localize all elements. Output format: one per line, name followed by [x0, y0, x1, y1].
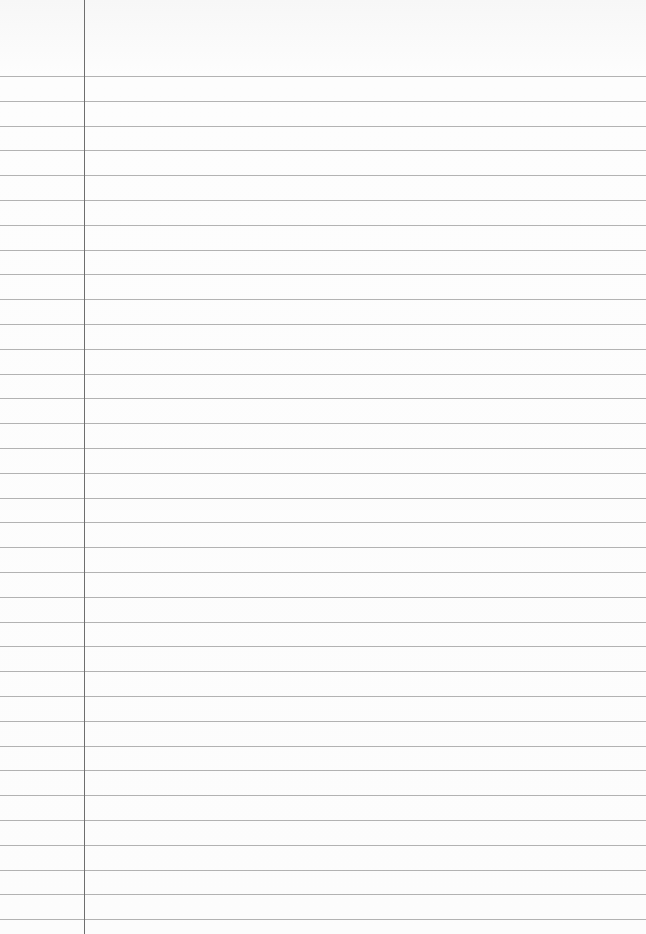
ruled-line — [0, 473, 646, 474]
lined-paper-sheet — [0, 0, 646, 934]
ruled-line — [0, 547, 646, 548]
ruled-line — [0, 349, 646, 350]
ruled-line — [0, 572, 646, 573]
ruled-line — [0, 522, 646, 523]
ruled-line — [0, 646, 646, 647]
ruled-line — [0, 225, 646, 226]
ruled-line — [0, 671, 646, 672]
ruled-line — [0, 101, 646, 102]
ruled-line — [0, 770, 646, 771]
ruled-line — [0, 76, 646, 77]
ruled-line — [0, 721, 646, 722]
ruled-line — [0, 820, 646, 821]
ruled-line — [0, 175, 646, 176]
ruled-line — [0, 126, 646, 127]
ruled-line — [0, 870, 646, 871]
ruled-line — [0, 423, 646, 424]
ruled-line — [0, 622, 646, 623]
ruled-line — [0, 845, 646, 846]
ruled-line — [0, 597, 646, 598]
ruled-line — [0, 696, 646, 697]
ruled-line — [0, 795, 646, 796]
ruled-line — [0, 448, 646, 449]
ruled-line — [0, 274, 646, 275]
ruled-line — [0, 374, 646, 375]
ruled-line — [0, 250, 646, 251]
ruled-line — [0, 324, 646, 325]
margin-line — [84, 0, 85, 934]
ruled-line — [0, 894, 646, 895]
ruled-line — [0, 919, 646, 920]
ruled-line — [0, 200, 646, 201]
ruled-line — [0, 746, 646, 747]
ruled-line — [0, 398, 646, 399]
ruled-line — [0, 299, 646, 300]
ruled-line — [0, 498, 646, 499]
ruled-line — [0, 150, 646, 151]
